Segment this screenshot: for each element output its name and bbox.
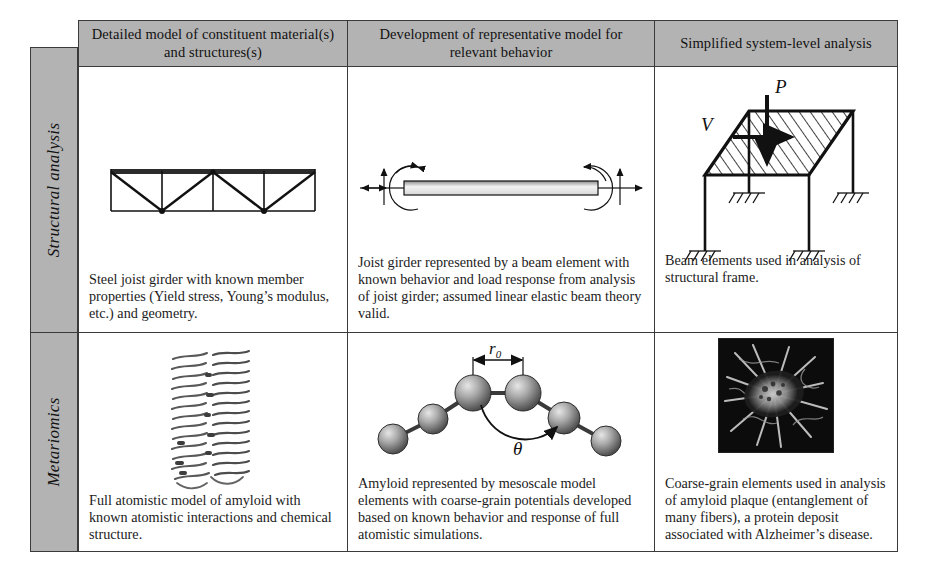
row-label-structural-analysis: Structural analysis bbox=[30, 47, 78, 333]
micrograph-image bbox=[718, 338, 834, 453]
atomistic-amyloid-figure bbox=[79, 345, 347, 505]
structural-frame-figure: P V bbox=[655, 75, 897, 265]
bond-length-label: r0 bbox=[489, 343, 502, 360]
cell-structural-system-analysis: P V Beam elements used in analysis of st… bbox=[655, 67, 898, 333]
bond-angle-label: θ bbox=[513, 438, 522, 459]
cell-structural-detailed-model: Steel joist girder with known member pro… bbox=[78, 67, 348, 333]
cell-caption: Full atomistic model of amyloid with kno… bbox=[89, 492, 339, 543]
cell-caption: Beam elements used in analysis of struct… bbox=[665, 252, 889, 286]
table-header-row: Detailed model of constituent material(s… bbox=[78, 20, 898, 67]
cell-metariomics-system-analysis: Coarse-grain elements used in analysis o… bbox=[655, 333, 898, 552]
bead-spring-diagram: r0 θ bbox=[361, 343, 641, 468]
row-label-metariomics: Metariomics bbox=[30, 333, 78, 552]
cell-caption: Coarse-grain elements used in analysis o… bbox=[665, 475, 889, 543]
row-label-text: Metariomics bbox=[44, 397, 64, 486]
cell-caption: Steel joist girder with known member pro… bbox=[89, 271, 339, 322]
column-header-detailed-model: Detailed model of constituent material(s… bbox=[78, 20, 348, 67]
frame-load-label-p: P bbox=[774, 76, 787, 97]
cell-caption: Amyloid represented by mesoscale model e… bbox=[358, 475, 646, 543]
amyloid-fibril-diagram bbox=[153, 345, 273, 495]
beam-element-diagram bbox=[356, 143, 646, 231]
beam-element-figure bbox=[348, 143, 654, 231]
plaque-rendering bbox=[719, 339, 833, 452]
cell-caption: Joist girder represented by a beam eleme… bbox=[358, 254, 646, 322]
column-header-simplified-analysis: Simplified system-level analysis bbox=[655, 20, 898, 67]
frame-diagram: P V bbox=[663, 75, 889, 265]
table-row: Steel joist girder with known member pro… bbox=[78, 67, 898, 333]
column-header-representative-model: Development of representative model for … bbox=[348, 20, 655, 67]
row-label-column: Structural analysis Metariomics bbox=[30, 47, 78, 552]
truss-diagram bbox=[103, 153, 323, 223]
steel-joist-girder-truss-figure bbox=[79, 153, 347, 223]
cell-structural-representative-model: Joist girder represented by a beam eleme… bbox=[348, 67, 655, 333]
cell-metariomics-detailed-model: Full atomistic model of amyloid with kno… bbox=[78, 333, 348, 552]
coarse-grain-bead-model-figure: r0 θ bbox=[348, 343, 654, 468]
cell-metariomics-representative-model: r0 θ Amyloid represented by mesoscale mo… bbox=[348, 333, 655, 552]
frame-load-label-v: V bbox=[701, 114, 715, 135]
amyloid-plaque-micrograph-figure bbox=[655, 338, 897, 458]
table-row: Full atomistic model of amyloid with kno… bbox=[78, 333, 898, 552]
table-body: Steel joist girder with known member pro… bbox=[78, 67, 898, 552]
comparison-table: Structural analysis Metariomics Detailed… bbox=[78, 20, 898, 552]
figure-table-page: Structural analysis Metariomics Detailed… bbox=[0, 0, 939, 576]
row-label-text: Structural analysis bbox=[44, 123, 64, 258]
